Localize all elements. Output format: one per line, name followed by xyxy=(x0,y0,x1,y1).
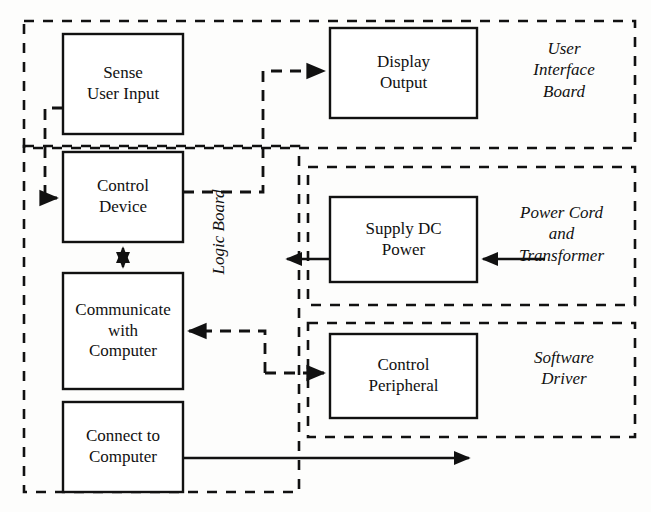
node-box-display-output[interactable] xyxy=(330,28,477,118)
node-box-control-peripheral[interactable] xyxy=(330,334,477,418)
node-box-supply-dc-power[interactable] xyxy=(330,197,477,282)
node-box-control-device[interactable] xyxy=(63,152,183,242)
block-diagram-canvas: Sense User Input Display Output Control … xyxy=(0,0,651,512)
region-label-software-driver: Software Driver xyxy=(505,347,623,390)
node-box-sense-user-input[interactable] xyxy=(63,34,183,134)
connector-control-device-to-display-output xyxy=(183,71,324,192)
node-box-connect-to-computer[interactable] xyxy=(63,402,183,492)
region-label-power-cord-and-transformer: Power Cord and Transformer xyxy=(495,202,628,266)
region-label-logic-board: Logic Board xyxy=(209,177,229,287)
region-label-user-interface-board: User Interface Board xyxy=(505,38,623,102)
node-box-communicate-with-computer[interactable] xyxy=(63,273,183,389)
connector-control-peripheral-to-communicate xyxy=(189,331,265,373)
connector-sense-to-control-device xyxy=(45,108,63,198)
